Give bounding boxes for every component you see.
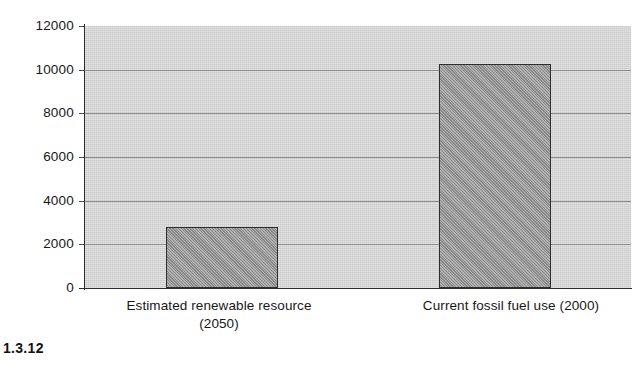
y-axis-tick-label: 12000 — [2, 19, 74, 33]
y-axis-tick-labels: 020004000600080001000012000 — [0, 0, 74, 334]
y-axis-tick-label: 6000 — [2, 150, 74, 164]
x-axis-line — [79, 288, 632, 289]
y-axis-tick-label: 4000 — [2, 194, 74, 208]
x-axis-category-label-1: Current fossil fuel use (2000) — [378, 297, 644, 315]
y-axis-tick-label: 8000 — [2, 106, 74, 120]
x-axis-category-label-line: (2050) — [104, 315, 334, 333]
x-axis-category-label-line: Estimated renewable resource — [104, 297, 334, 315]
bar — [166, 227, 278, 288]
y-axis-tick-label: 10000 — [2, 63, 74, 77]
figure-caption: 1.3.12 — [3, 340, 44, 356]
x-axis-category-label-0: Estimated renewable resource(2050) — [104, 297, 334, 333]
x-axis-category-label-line: Current fossil fuel use (2000) — [378, 297, 644, 315]
y-axis-tick-label: 0 — [2, 281, 74, 295]
bar — [439, 64, 551, 288]
bar-chart-figure: 020004000600080001000012000 Estimated re… — [0, 0, 644, 334]
y-axis-tick-label: 2000 — [2, 237, 74, 251]
